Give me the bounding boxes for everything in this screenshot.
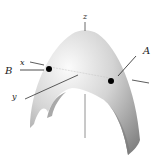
z-axis-label: z (82, 12, 88, 21)
point-b-label: B (4, 65, 12, 76)
point-a-label: A (142, 45, 150, 56)
x-axis-right (132, 80, 149, 83)
point-b-marker (46, 66, 52, 72)
y-axis-label: y (11, 92, 17, 101)
point-a-marker (108, 78, 114, 84)
x-axis-label: x (20, 58, 25, 67)
paraboloid-diagram: z x y B A (0, 0, 159, 167)
x-axis (30, 62, 44, 65)
